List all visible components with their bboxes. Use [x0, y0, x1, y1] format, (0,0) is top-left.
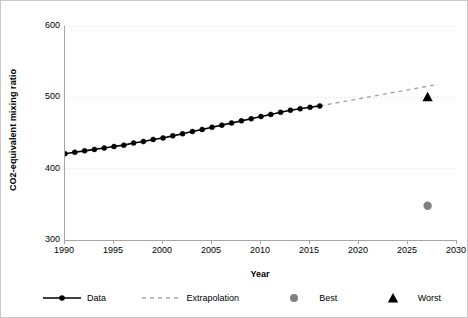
x-tick-mark: [113, 240, 114, 244]
data-point-marker: [161, 135, 166, 140]
x-tick-mark: [260, 240, 261, 244]
data-point-marker: [308, 105, 313, 110]
x-axis-title: Year: [64, 269, 456, 279]
data-point-marker: [268, 112, 273, 117]
x-tick-mark: [162, 240, 163, 244]
x-tick-label: 1990: [44, 245, 84, 255]
data-point-marker: [190, 129, 195, 134]
data-point-marker: [170, 133, 175, 138]
x-tick-mark: [64, 240, 65, 244]
data-point-marker: [131, 140, 136, 145]
y-tick-label: 600: [20, 21, 60, 30]
legend-item-best[interactable]: Best: [273, 292, 337, 304]
line-marker-key-glyph: [41, 292, 83, 304]
x-tick-label: 1995: [93, 245, 133, 255]
legend-item-extrapolation[interactable]: Extrapolation: [140, 292, 239, 304]
data-point-marker: [65, 151, 68, 156]
circle-key: [273, 292, 315, 304]
x-tick-label: 2015: [289, 245, 329, 255]
worst-scenario-marker: [422, 92, 432, 102]
series-extrapolation: [320, 84, 438, 105]
x-tick-label: 2010: [240, 245, 280, 255]
data-point-marker: [288, 108, 293, 113]
x-tick-label: 2025: [387, 245, 427, 255]
dashed-line-key-glyph: [140, 292, 182, 304]
data-point-marker: [298, 106, 303, 111]
legend-dot: [59, 295, 65, 301]
x-tick-label: 2000: [142, 245, 182, 255]
triangle-key-glyph: [372, 292, 414, 304]
x-tick-label: 2030: [436, 245, 468, 255]
legend-triangle: [387, 293, 397, 303]
data-point-marker: [141, 139, 146, 144]
chart-figure: CO2-equivalent mixing ratio 600500400300…: [0, 0, 468, 318]
data-point-marker: [72, 150, 77, 155]
y-tick-label: 500: [20, 92, 60, 101]
legend-label: Extrapolation: [186, 293, 239, 303]
triangle-key: [372, 292, 414, 304]
data-point-marker: [239, 118, 244, 123]
data-point-marker: [200, 127, 205, 132]
chart-legend: DataExtrapolationBestWorst: [41, 289, 441, 307]
x-tick-mark: [211, 240, 212, 244]
data-point-marker: [210, 125, 215, 130]
legend-item-worst[interactable]: Worst: [372, 292, 441, 304]
data-point-marker: [317, 103, 322, 108]
y-axis-tick-labels: 600500400300: [13, 26, 60, 240]
data-point-marker: [229, 121, 234, 126]
data-point-marker: [151, 137, 156, 142]
legend-circle: [290, 294, 298, 302]
x-tick-label: 2005: [191, 245, 231, 255]
x-tick-label: 2020: [338, 245, 378, 255]
data-point-marker: [259, 114, 264, 119]
x-tick-mark: [407, 240, 408, 244]
y-tick-label: 300: [20, 235, 60, 244]
y-tick-label: 400: [20, 164, 60, 173]
circle-key-glyph: [273, 292, 315, 304]
plot-area: [64, 26, 457, 241]
data-point-marker: [121, 143, 126, 148]
x-tick-mark: [456, 240, 457, 244]
x-axis-tick-labels: 199019952000200520102015202020252030: [64, 245, 456, 259]
data-point-marker: [278, 110, 283, 115]
legend-label: Best: [319, 293, 337, 303]
legend-item-data[interactable]: Data: [41, 292, 106, 304]
x-tick-mark: [358, 240, 359, 244]
best-scenario-marker: [423, 202, 431, 210]
legend-label: Data: [87, 293, 106, 303]
data-point-marker: [249, 116, 254, 121]
data-point-marker: [92, 147, 97, 152]
data-point-marker: [180, 131, 185, 136]
data-point-marker: [82, 148, 87, 153]
x-tick-mark: [309, 240, 310, 244]
data-point-marker: [102, 145, 107, 150]
chart-canvas: [65, 26, 457, 240]
dashed-line-key: [140, 292, 182, 304]
data-point-marker: [219, 123, 224, 128]
line-marker-key: [41, 292, 83, 304]
legend-label: Worst: [418, 293, 441, 303]
data-point-marker: [112, 144, 117, 149]
